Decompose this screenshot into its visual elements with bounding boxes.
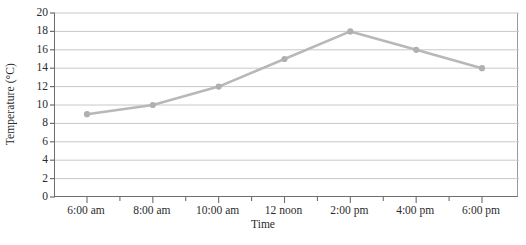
y-axis-tick-label: 12 <box>18 81 48 93</box>
y-axis-tick-label: 8 <box>18 118 48 130</box>
y-axis-tick-label: 2 <box>18 173 48 185</box>
y-axis-tick-label: 16 <box>18 44 48 56</box>
plot-svg <box>54 12 520 198</box>
temperature-line-chart: Temperature (°C) 02468101214161820 6:00 … <box>0 0 526 245</box>
temperature-line <box>87 31 482 114</box>
y-axis-tick-labels: 02468101214161820 <box>18 0 48 208</box>
x-axis-tick-label: 8:00 am <box>133 203 170 217</box>
data-point-markers <box>84 28 485 117</box>
x-axis-tick-label: 12 noon <box>265 203 302 217</box>
y-axis-tick-label: 0 <box>18 191 48 203</box>
x-axis-title: Time <box>0 218 526 230</box>
y-axis-tick-label: 14 <box>18 62 48 74</box>
gridlines <box>55 13 519 179</box>
y-axis-tick-label: 18 <box>18 26 48 38</box>
x-axis-tick-label: 10:00 am <box>196 203 239 217</box>
data-point <box>84 111 90 117</box>
plot-area <box>54 13 518 197</box>
data-point <box>216 84 222 90</box>
data-point <box>413 47 419 53</box>
x-axis-tick-label: 6:00 am <box>67 203 104 217</box>
data-point <box>347 28 353 34</box>
y-axis-ticks <box>50 13 55 197</box>
data-point <box>479 65 485 71</box>
y-axis-tick-label: 10 <box>18 99 48 111</box>
data-point <box>281 56 287 62</box>
y-axis-tick-label: 4 <box>18 154 48 166</box>
x-axis-tick-label: 2:00 pm <box>330 203 368 217</box>
y-axis-title: Temperature (°C) <box>0 0 20 208</box>
y-axis-title-text: Temperature (°C) <box>4 63 16 145</box>
data-point <box>150 102 156 108</box>
x-axis-tick-label: 6:00 pm <box>462 203 500 217</box>
y-axis-tick-label: 6 <box>18 136 48 148</box>
x-axis-tick-label: 4:00 pm <box>396 203 434 217</box>
y-axis-tick-label: 20 <box>18 7 48 19</box>
